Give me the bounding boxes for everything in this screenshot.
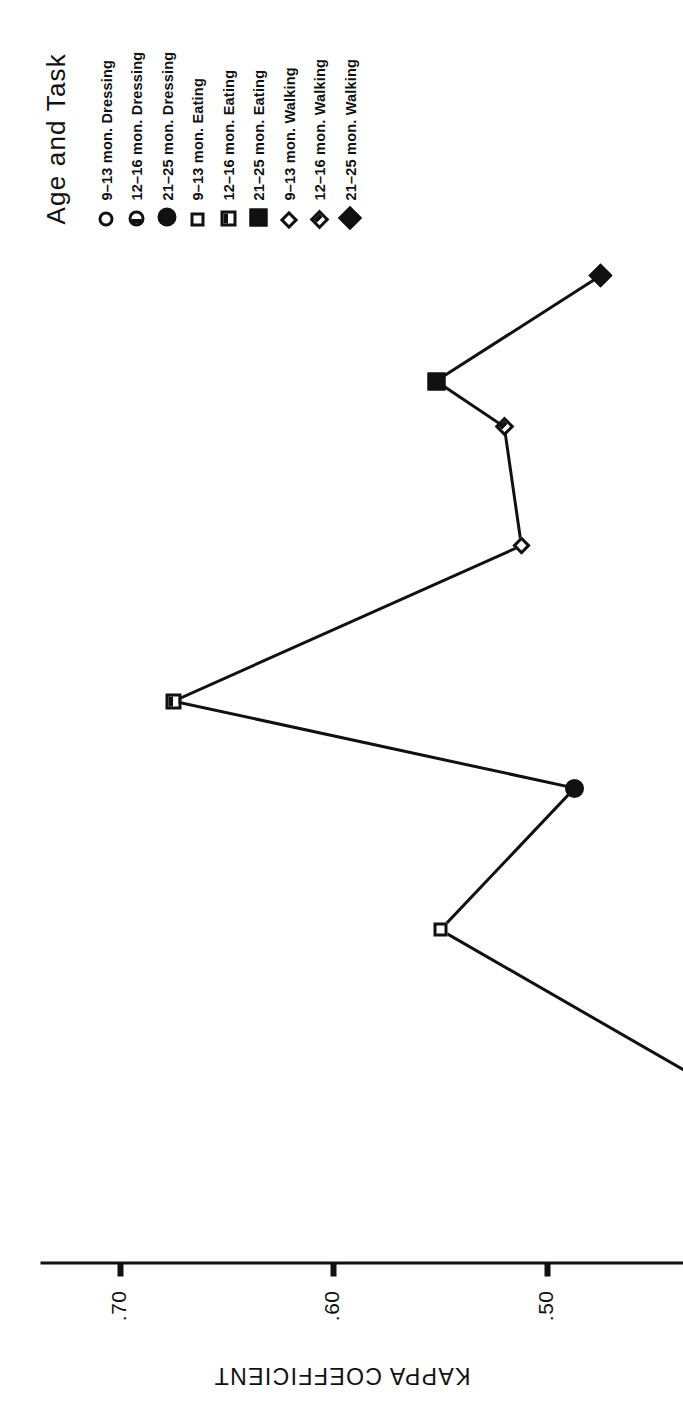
legend-item: 12–16 mon. Eating bbox=[215, 6, 240, 226]
legend-item: 21–25 mon. Eating bbox=[246, 6, 271, 226]
legend-item: 9–13 mon. Dressing bbox=[93, 6, 118, 226]
diamond-open-icon bbox=[278, 200, 300, 226]
data-point-circle-filled bbox=[565, 778, 584, 797]
square-open-icon bbox=[186, 200, 208, 226]
legend-rows: 9–13 mon. Dressing12–16 mon. Dressing21–… bbox=[93, 6, 362, 226]
legend-item-label: 21–25 mon. Dressing bbox=[159, 51, 175, 200]
legend-item-label: 9–13 mon. Eating bbox=[189, 78, 205, 200]
figure-canvas: KAPPA COEFFICIENT .70.60.50.40.30 0 Not … bbox=[0, 0, 683, 1424]
legend-item-label: 12–16 mon. Walking bbox=[311, 58, 327, 200]
data-point-square-half bbox=[165, 693, 181, 709]
square-filled-icon bbox=[247, 200, 269, 226]
legend-item-label: 12–16 mon. Eating bbox=[220, 69, 236, 200]
legend-item: 12–16 mon. Dressing bbox=[124, 6, 149, 226]
data-point-square-open bbox=[433, 922, 447, 936]
square-half-icon bbox=[217, 200, 239, 226]
circle-half-icon bbox=[125, 200, 147, 226]
data-point-square-filled bbox=[427, 372, 445, 390]
legend: Age and Task 9–13 mon. Dressing12–16 mon… bbox=[40, 6, 368, 226]
legend-item: 12–16 mon. Walking bbox=[307, 6, 332, 226]
legend-item: 9–13 mon. Walking bbox=[276, 6, 301, 226]
circle-open-icon bbox=[95, 200, 117, 226]
legend-item-label: 9–13 mon. Walking bbox=[281, 67, 297, 200]
diamond-filled-icon bbox=[339, 200, 361, 226]
legend-item: 9–13 mon. Eating bbox=[185, 6, 210, 226]
legend-item-label: 21–25 mon. Walking bbox=[342, 58, 358, 200]
legend-item-label: 9–13 mon. Dressing bbox=[98, 59, 114, 200]
legend-item-label: 21–25 mon. Eating bbox=[250, 69, 266, 200]
circle-filled-icon bbox=[156, 200, 178, 226]
legend-item: 21–25 mon. Dressing bbox=[154, 6, 179, 226]
legend-item: 21–25 mon. Walking bbox=[337, 6, 362, 226]
legend-title: Age and Task bbox=[40, 6, 71, 224]
diamond-half-icon bbox=[308, 200, 330, 226]
legend-item-label: 12–16 mon. Dressing bbox=[128, 51, 144, 200]
